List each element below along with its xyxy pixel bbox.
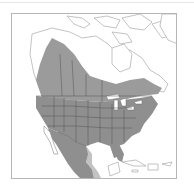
caribbean-islands [122,160,172,172]
greenland [160,14,177,44]
range-map [12,14,177,179]
top-divider [0,2,194,3]
yucatan [108,162,120,176]
map-frame [11,13,177,179]
